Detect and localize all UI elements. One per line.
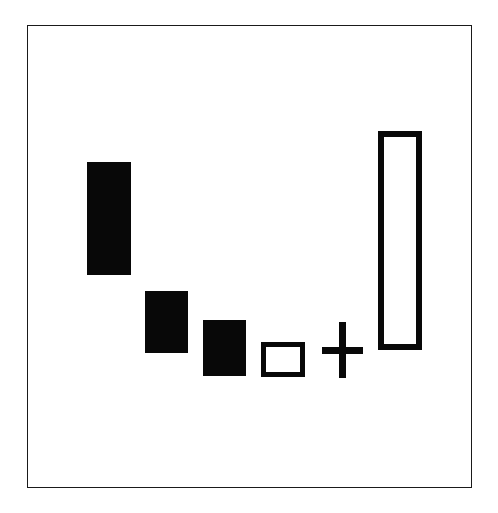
marks-layer: [0, 0, 498, 513]
bar-3: [203, 320, 246, 376]
bar-total: [378, 131, 422, 350]
plus-operator-icon: [322, 322, 363, 378]
plus-vertical-stroke: [339, 322, 346, 378]
bar-1: [87, 162, 131, 275]
figure-root: [0, 0, 498, 513]
bar-4: [261, 342, 305, 377]
bar-2: [145, 291, 188, 353]
